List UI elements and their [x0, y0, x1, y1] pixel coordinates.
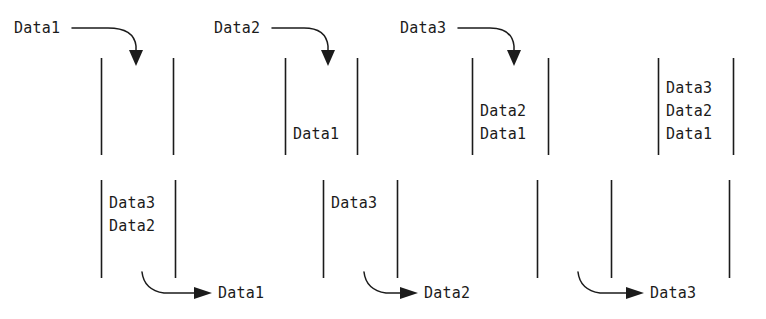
- push-arrow-3: [458, 28, 521, 66]
- push-stack-2-item-0: Data1: [293, 127, 339, 142]
- push-stack-4-item-1: Data2: [666, 104, 712, 119]
- pop-stack-1-item-0: Data3: [109, 196, 155, 211]
- pop-stack-2-item-0: Data3: [331, 196, 377, 211]
- push-stack-4-item-2: Data1: [666, 127, 712, 142]
- pop-stack-1-item-1: Data2: [109, 219, 155, 234]
- pop-label-2: Data2: [424, 286, 470, 301]
- push-stack-4-item-0: Data3: [666, 81, 712, 96]
- push-arrow-1: [72, 28, 143, 66]
- pop-label-3: Data3: [650, 286, 696, 301]
- push-label-2: Data2: [214, 21, 260, 36]
- push-arrow-2: [272, 28, 335, 66]
- pop-label-1: Data1: [218, 286, 264, 301]
- pop-stack-3-walls: [538, 180, 612, 278]
- push-stack-1-walls: [102, 58, 174, 155]
- push-label-1: Data1: [14, 21, 60, 36]
- stack-operations-diagram: Data1 Data2 Data3 Data1 Data2 Data1 Data…: [0, 0, 766, 319]
- push-stack-3-item-1: Data1: [480, 127, 526, 142]
- push-stack-3-item-0: Data2: [480, 104, 526, 119]
- push-label-3: Data3: [400, 21, 446, 36]
- diagram-canvas: [0, 0, 766, 319]
- pop-arrow-1: [142, 272, 212, 299]
- pop-arrow-2: [364, 272, 418, 299]
